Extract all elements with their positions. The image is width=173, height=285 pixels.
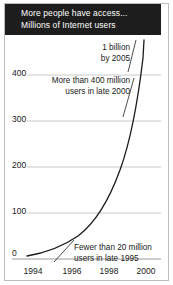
annotation-four-hundred-million-line-1: More than 400 million: [26, 76, 130, 87]
x-tick-label-1998: 1998: [94, 266, 124, 276]
y-tick-label-100: 100: [12, 206, 26, 216]
annotation-twenty-million-line-1: Fewer than 20 million: [74, 243, 168, 254]
annotation-four-hundred-million-line-2: users in late 2000: [26, 87, 130, 98]
annotation-leader-lines: [54, 40, 136, 262]
chart-subtitle-line-2: Millions of Internet users: [21, 20, 161, 32]
y-tick-label-0: 0: [12, 248, 17, 258]
internet-users-curve: [27, 40, 144, 256]
annotation-one-billion-line-1: 1 billion: [72, 43, 130, 54]
annotation-twenty-million: Fewer than 20 million users in late 1995: [74, 243, 168, 264]
x-tick-label-1994: 1994: [18, 266, 48, 276]
chart-title-banner: More people have access... Millions of I…: [5, 4, 161, 35]
annotation-twenty-million-line-2: users in late 1995: [74, 254, 168, 265]
annotation-four-hundred-million: More than 400 million users in late 2000: [26, 76, 130, 97]
x-tick-label-1996: 1996: [57, 266, 87, 276]
y-tick-label-400: 400: [12, 68, 26, 78]
chart-figure: More people have access... Millions of I…: [0, 0, 173, 285]
y-tick-label-200: 200: [12, 160, 26, 170]
chart-title-line-1: More people have access...: [21, 8, 161, 20]
annotation-one-billion-line-2: by 2005: [72, 54, 130, 65]
x-tick-label-2000: 2000: [131, 266, 161, 276]
annotation-one-billion: 1 billion by 2005: [72, 43, 130, 64]
y-tick-label-300: 300: [12, 114, 26, 124]
